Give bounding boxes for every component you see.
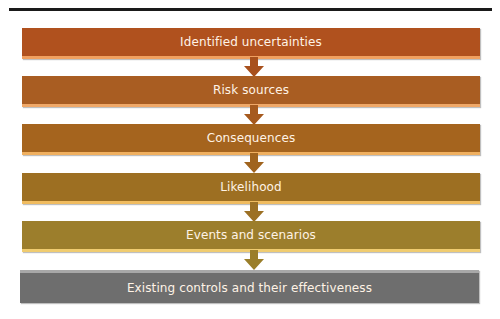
step-label: Existing controls and their effectivenes… xyxy=(127,281,372,295)
top-rule xyxy=(9,8,492,11)
step-box-likelihood: Likelihood xyxy=(22,173,480,204)
down-arrow-icon xyxy=(244,202,264,222)
step-label: Identified uncertainties xyxy=(180,35,322,49)
down-arrow-icon xyxy=(244,57,264,77)
step-box-consequences: Consequences xyxy=(22,124,480,155)
step-box-existing-controls: Existing controls and their effectivenes… xyxy=(20,270,479,303)
step-label: Likelihood xyxy=(220,180,282,194)
step-box-identified-uncertainties: Identified uncertainties xyxy=(22,28,480,59)
step-label: Consequences xyxy=(207,131,296,145)
step-box-risk-sources: Risk sources xyxy=(22,76,480,107)
step-label: Risk sources xyxy=(213,83,289,97)
down-arrow-icon xyxy=(244,250,264,270)
down-arrow-icon xyxy=(244,153,264,173)
step-box-events-and-scenarios: Events and scenarios xyxy=(22,221,480,252)
step-label: Events and scenarios xyxy=(186,228,316,242)
down-arrow-icon xyxy=(244,105,264,125)
